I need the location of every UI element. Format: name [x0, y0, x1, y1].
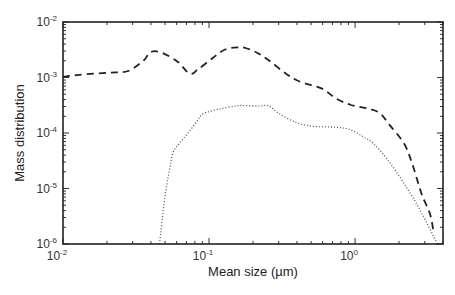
- plot-series: [63, 47, 437, 244]
- y-tick-label: 10-3: [37, 70, 58, 85]
- dashed-series-line: [63, 47, 434, 234]
- y-tick-label: 10-2: [37, 14, 58, 29]
- plot-frame: [63, 22, 443, 244]
- minor-ticks: [63, 22, 443, 244]
- x-tick-label: 100: [340, 248, 358, 263]
- x-axis-title: Mean size (µm): [208, 264, 298, 279]
- y-tick-label: 10-5: [37, 181, 58, 196]
- y-tick-label: 10-4: [37, 125, 58, 140]
- y-tick-labels: 10-210-310-410-510-6: [37, 14, 58, 251]
- major-ticks: [63, 22, 443, 244]
- x-tick-label: 10-2: [47, 248, 68, 263]
- y-axis-title: Mass distribution: [12, 84, 27, 182]
- dotted-series-line: [160, 105, 438, 244]
- chart: 10-210-1100 10-210-310-410-510-6 Mean si…: [0, 0, 455, 295]
- x-tick-label: 10-1: [193, 248, 214, 263]
- x-tick-labels: 10-210-1100: [47, 248, 359, 263]
